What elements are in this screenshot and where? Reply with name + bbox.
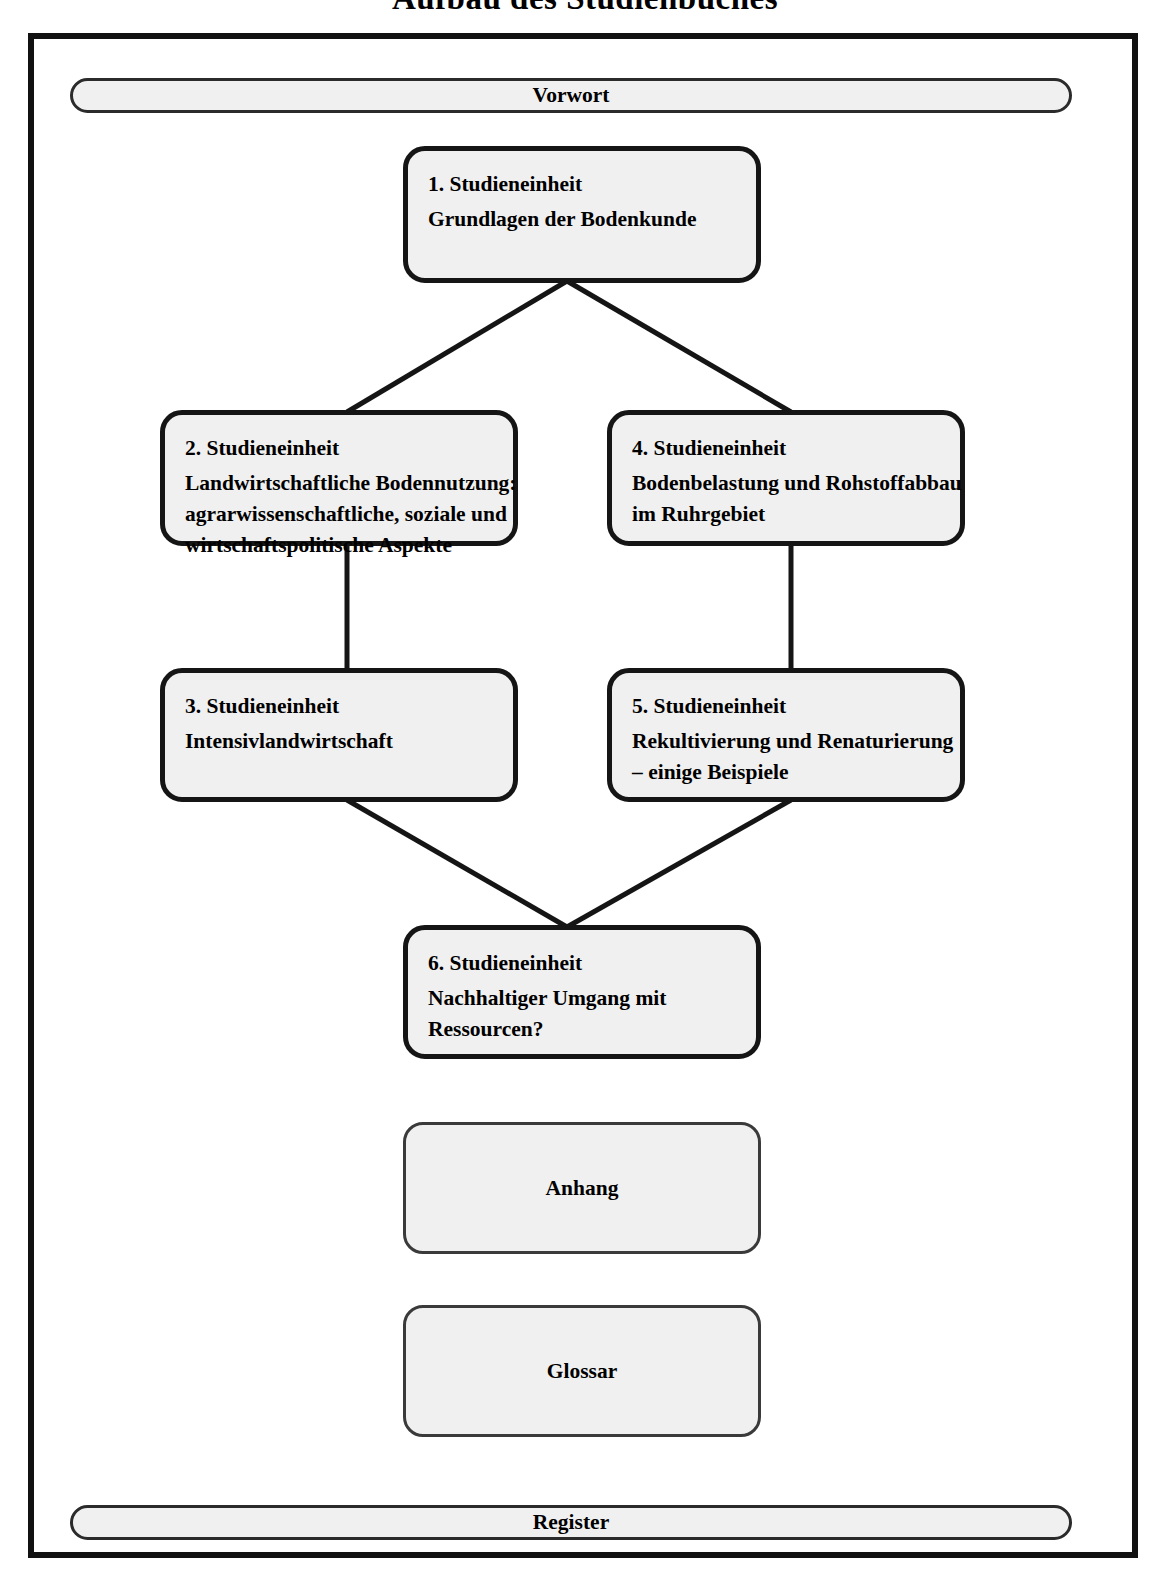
vorwort-label: Vorwort [533, 83, 610, 108]
node-unit-6-heading: 6. Studieneinheit [428, 948, 736, 979]
node-unit-4-line-1: Bodenbelastung und Rohstoffabbau [632, 468, 940, 499]
node-unit-4[interactable]: 4. Studieneinheit Bodenbelastung und Roh… [607, 410, 965, 546]
node-unit-4-line-2: im Ruhrgebiet [632, 499, 940, 530]
node-unit-3-heading: 3. Studieneinheit [185, 691, 493, 722]
node-unit-5[interactable]: 5. Studieneinheit Rekultivierung und Ren… [607, 668, 965, 802]
register-label: Register [533, 1510, 609, 1535]
node-unit-1-line-1: Grundlagen der Bodenkunde [428, 204, 736, 235]
node-unit-6-line-2: Ressourcen? [428, 1014, 736, 1045]
node-unit-3-line-1: Intensivlandwirtschaft [185, 726, 493, 757]
page-title: Aufbau des Studienbuches [0, 0, 1170, 18]
node-anhang[interactable]: Anhang [403, 1122, 761, 1254]
node-unit-2-line-1: Landwirtschaftliche Bodennutzung: [185, 468, 493, 499]
node-glossar[interactable]: Glossar [403, 1305, 761, 1437]
node-unit-5-line-1: Rekultivierung und Renaturierung [632, 726, 940, 757]
node-unit-2-line-3: wirtschaftspolitische Aspekte [185, 530, 493, 561]
node-unit-4-heading: 4. Studieneinheit [632, 433, 940, 464]
register-bar[interactable]: Register [70, 1505, 1072, 1540]
node-unit-5-heading: 5. Studieneinheit [632, 691, 940, 722]
node-unit-3[interactable]: 3. Studieneinheit Intensivlandwirtschaft [160, 668, 518, 802]
node-unit-2-line-2: agrarwissenschaftliche, soziale und [185, 499, 493, 530]
node-unit-2[interactable]: 2. Studieneinheit Landwirtschaftliche Bo… [160, 410, 518, 546]
node-unit-6[interactable]: 6. Studieneinheit Nachhaltiger Umgang mi… [403, 925, 761, 1059]
node-unit-6-line-1: Nachhaltiger Umgang mit [428, 983, 736, 1014]
node-anhang-label: Anhang [546, 1173, 619, 1204]
node-glossar-label: Glossar [547, 1356, 617, 1387]
node-unit-5-line-2: – einige Beispiele [632, 757, 940, 788]
node-unit-1[interactable]: 1. Studieneinheit Grundlagen der Bodenku… [403, 146, 761, 283]
node-unit-2-heading: 2. Studieneinheit [185, 433, 493, 464]
node-unit-1-heading: 1. Studieneinheit [428, 169, 736, 200]
vorwort-bar[interactable]: Vorwort [70, 78, 1072, 113]
